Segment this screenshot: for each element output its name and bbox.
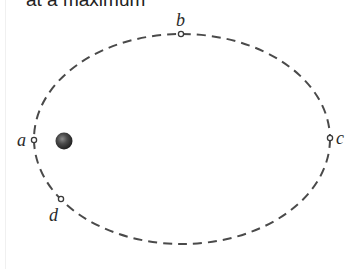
- orbit-point-d: d: [49, 196, 64, 225]
- point-marker-icon: [178, 31, 183, 36]
- orbit-diagram: a b c d: [0, 0, 353, 269]
- point-label-d: d: [49, 205, 59, 225]
- point-marker-icon: [31, 137, 36, 142]
- orbit-point-b: b: [176, 10, 185, 37]
- point-marker-icon: [58, 196, 63, 201]
- point-marker-icon: [327, 135, 332, 140]
- planet-icon: [56, 133, 73, 150]
- point-label-b: b: [176, 10, 185, 30]
- orbit-ellipse: [34, 34, 330, 244]
- point-label-c: c: [336, 128, 344, 148]
- point-label-a: a: [17, 130, 26, 150]
